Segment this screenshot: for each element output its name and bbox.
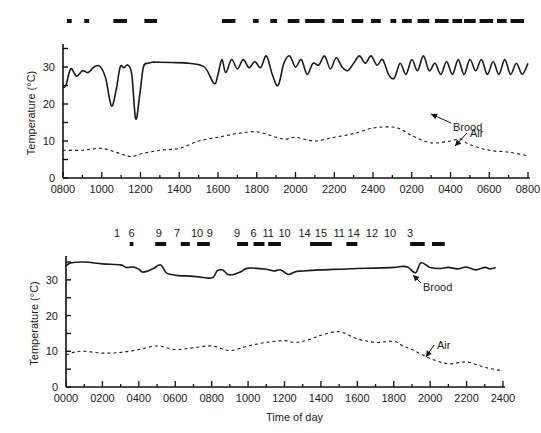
top-panel: 0102030080010001200140016001800200022002… xyxy=(25,19,540,195)
activity-bar xyxy=(352,19,364,23)
y-tick-label: 30 xyxy=(43,61,55,73)
x-tick-label: 2000 xyxy=(418,392,442,404)
activity-bar xyxy=(197,242,210,246)
arrowhead-icon xyxy=(426,350,432,357)
activity-count-label: 14 xyxy=(298,227,310,239)
x-tick-label: 1200 xyxy=(128,183,152,195)
activity-bar xyxy=(346,242,357,246)
bottom-panel: 0102030000002000400060008001000120014001… xyxy=(28,227,515,423)
y-tick-label: 20 xyxy=(46,310,58,322)
x-tick-label: 1000 xyxy=(90,183,114,195)
activity-bar xyxy=(402,19,412,23)
y-axis-title: Temperature (°C) xyxy=(25,71,37,155)
activity-bar xyxy=(390,19,396,23)
activity-bar xyxy=(254,242,265,246)
x-tick-label: 1600 xyxy=(345,392,369,404)
activity-bar xyxy=(237,242,248,246)
activity-bar xyxy=(511,19,525,23)
activity-count-label: 9 xyxy=(207,227,213,239)
chart-figure: 0102030080010001200140016001800200022002… xyxy=(0,0,541,433)
x-tick-label: 1400 xyxy=(167,183,191,195)
x-tick-label: 1800 xyxy=(382,392,406,404)
activity-bar xyxy=(464,19,476,23)
activity-count-label: 9 xyxy=(234,227,240,239)
activity-count-label: 6 xyxy=(250,227,256,239)
annotation-air: Air xyxy=(437,339,451,351)
y-axis-title: Temperature (°C) xyxy=(28,281,40,365)
activity-count-label: 11 xyxy=(333,227,344,239)
series-brood-line xyxy=(66,262,496,278)
x-tick-label: 0400 xyxy=(438,183,462,195)
x-tick-label: 2400 xyxy=(361,183,385,195)
activity-count-label: 14 xyxy=(348,227,360,239)
activity-bar xyxy=(268,242,281,246)
y-tick-label: 10 xyxy=(46,345,58,357)
activity-count-label: 15 xyxy=(315,227,327,239)
activity-count-label: 11 xyxy=(262,227,273,239)
activity-bar xyxy=(418,19,430,23)
activity-bar xyxy=(222,19,236,23)
activity-count-label: 10 xyxy=(278,227,290,239)
activity-count-label: 10 xyxy=(384,227,396,239)
x-tick-label: 2400 xyxy=(491,392,515,404)
activity-count-label: 7 xyxy=(174,227,180,239)
annotation-brood: Brood xyxy=(423,281,452,293)
x-axis-title: Time of day xyxy=(266,411,324,423)
activity-count-label: 6 xyxy=(128,227,134,239)
activity-bar xyxy=(332,19,344,23)
activity-bar xyxy=(497,19,507,23)
activity-bar xyxy=(155,242,166,246)
activity-count-label: 10 xyxy=(191,227,203,239)
activity-bar xyxy=(305,19,324,23)
x-tick-label: 0600 xyxy=(163,392,187,404)
activity-bar xyxy=(410,242,425,246)
x-tick-label: 1800 xyxy=(245,183,269,195)
x-tick-label: 1200 xyxy=(272,392,296,404)
x-tick-label: 0200 xyxy=(400,183,424,195)
activity-count-label: 3 xyxy=(407,227,413,239)
activity-bar xyxy=(432,242,445,246)
activity-bar xyxy=(130,242,134,246)
x-tick-label: 2200 xyxy=(454,392,478,404)
x-tick-label: 0000 xyxy=(54,392,78,404)
activity-count-label: 9 xyxy=(156,227,162,239)
y-tick-label: 30 xyxy=(46,274,58,286)
activity-bar xyxy=(435,19,449,23)
activity-bar xyxy=(371,19,381,23)
activity-bar xyxy=(288,19,300,23)
annotation-air: Air xyxy=(470,127,484,139)
x-tick-label: 1400 xyxy=(309,392,333,404)
activity-count-label: 1 xyxy=(114,227,120,239)
x-tick-label: 0400 xyxy=(127,392,151,404)
activity-bar xyxy=(181,242,190,246)
x-tick-label: 0600 xyxy=(477,183,501,195)
activity-bar xyxy=(480,19,494,23)
y-tick-label: 10 xyxy=(43,135,55,147)
x-tick-label: 2200 xyxy=(322,183,346,195)
x-tick-label: 0200 xyxy=(90,392,114,404)
activity-bar xyxy=(452,19,462,23)
activity-bar xyxy=(84,19,89,23)
x-tick-label: 1000 xyxy=(236,392,260,404)
x-tick-label: 2000 xyxy=(283,183,307,195)
x-tick-label: 0800 xyxy=(199,392,223,404)
activity-bar xyxy=(144,19,157,23)
activity-count-label: 12 xyxy=(366,227,378,239)
x-tick-label: 0800 xyxy=(51,183,75,195)
y-tick-label: 20 xyxy=(43,98,55,110)
activity-bar xyxy=(270,19,277,23)
activity-bar xyxy=(253,19,259,23)
series-brood-line xyxy=(63,56,528,119)
x-tick-label: 1600 xyxy=(206,183,230,195)
activity-bar xyxy=(113,19,127,23)
x-tick-label: 0800 xyxy=(516,183,540,195)
activity-bar xyxy=(67,19,72,23)
series-air-line xyxy=(66,332,503,371)
activity-bar xyxy=(310,242,332,246)
